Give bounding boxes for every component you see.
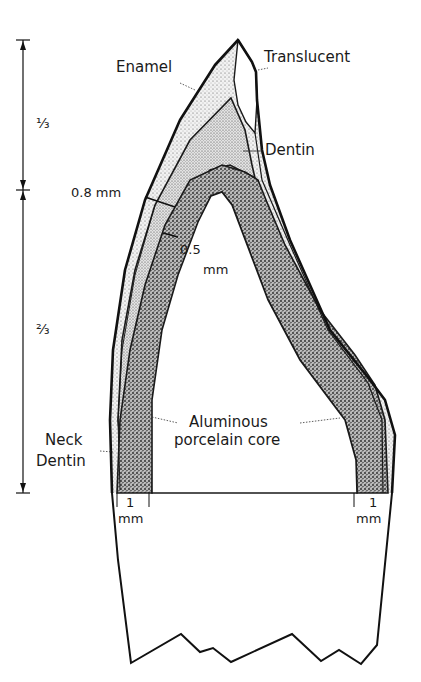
arrow-mid-down — [20, 191, 26, 200]
label-core-line2: porcelain core — [174, 433, 280, 448]
leader-translucent — [258, 68, 268, 70]
label-neck-dentin: Dentin — [36, 454, 86, 469]
label-thickness-0-8mm: 0.8 mm — [71, 186, 121, 199]
label-shoulder-left-value: 1 — [126, 496, 134, 509]
crown-diagram — [0, 0, 421, 682]
label-core-thickness-value: 0.5 — [180, 243, 201, 256]
leader-enamel — [180, 83, 195, 90]
label-core-line1: Aluminous — [189, 415, 268, 430]
label-translucent: Translucent — [264, 50, 350, 65]
arrow-top — [20, 41, 26, 50]
label-dentin: Dentin — [265, 143, 315, 158]
label-enamel: Enamel — [116, 60, 172, 75]
label-shoulder-left-unit: mm — [118, 512, 143, 525]
label-lower-two-thirds: ⅔ — [36, 322, 50, 336]
label-core-thickness-unit: mm — [203, 263, 228, 276]
label-shoulder-right-value: 1 — [369, 496, 377, 509]
tooth-root — [112, 493, 392, 664]
label-shoulder-right-unit: mm — [356, 512, 381, 525]
label-neck: Neck — [45, 433, 82, 448]
arrow-mid-up — [20, 180, 26, 189]
arrow-bottom — [20, 483, 26, 492]
label-upper-third: ⅓ — [36, 116, 50, 130]
